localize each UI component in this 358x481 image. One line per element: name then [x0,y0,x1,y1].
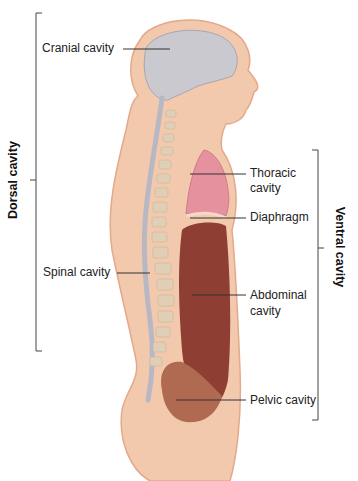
body-cavity-figure [0,0,358,481]
label-thoracic-line1: Thoracic [250,166,296,181]
dorsal-bracket [30,13,42,351]
label-diaphragm: Diaphragm [250,210,309,225]
label-cranial-cavity: Cranial cavity [42,41,114,56]
ventral-bracket [312,150,324,420]
label-abdominal-line2: cavity [250,304,281,319]
label-dorsal-cavity: Dorsal cavity [6,135,20,225]
label-pelvic-cavity: Pelvic cavity [250,393,316,408]
label-abdominal-line1: Abdominal [250,288,307,303]
label-spinal-cavity: Spinal cavity [43,265,110,280]
label-ventral-cavity: Ventral cavity [333,197,347,297]
label-thoracic-line2: cavity [250,181,281,196]
